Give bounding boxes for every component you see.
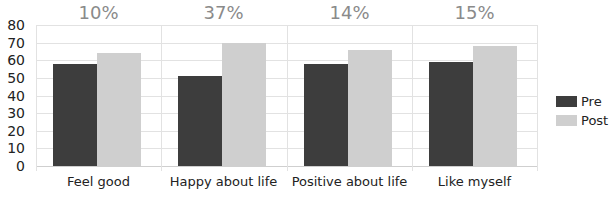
x-category-label: Happy about life (161, 174, 286, 189)
y-tick-label: 30 (0, 106, 25, 120)
legend-swatch (556, 115, 577, 126)
bar-post (222, 43, 266, 166)
percent-change-annotation: 37% (161, 2, 286, 23)
legend-label: Post (581, 113, 608, 128)
legend-item-post: Post (556, 114, 608, 126)
category-divider (537, 25, 538, 171)
legend-swatch (556, 96, 577, 107)
bar-pre (178, 76, 222, 166)
category-divider (161, 25, 162, 171)
category-divider (36, 25, 37, 171)
x-category-label: Feel good (36, 174, 161, 189)
x-category-label: Positive about life (287, 174, 412, 189)
bar-pre (53, 64, 97, 166)
percent-change-annotation: 15% (412, 2, 537, 23)
bar-pre (429, 62, 473, 166)
bar-post (348, 50, 392, 166)
y-tick-label: 60 (0, 53, 25, 67)
percent-change-annotation: 10% (36, 2, 161, 23)
y-tick-label: 10 (0, 141, 25, 155)
legend-item-pre: Pre (556, 95, 602, 107)
y-tick-label: 80 (0, 18, 25, 32)
bar-post (97, 53, 141, 166)
y-tick-label: 70 (0, 36, 25, 50)
grouped-bar-chart: 01020304050607080Feel good10%Happy about… (0, 0, 616, 199)
y-tick-label: 20 (0, 124, 25, 138)
x-category-label: Like myself (412, 174, 537, 189)
y-tick-label: 40 (0, 89, 25, 103)
y-tick-label: 50 (0, 71, 25, 85)
legend-label: Pre (581, 94, 602, 109)
bar-post (473, 46, 517, 166)
percent-change-annotation: 14% (287, 2, 412, 23)
category-divider (287, 25, 288, 171)
y-tick-label: 0 (0, 159, 25, 173)
bar-pre (304, 64, 348, 166)
category-divider (412, 25, 413, 171)
